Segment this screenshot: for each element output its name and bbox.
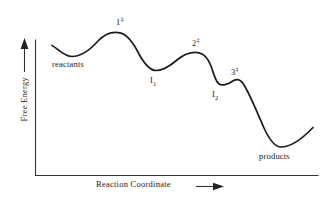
label-transition-state-1: 1‡ — [116, 18, 124, 27]
free-energy-curve — [52, 32, 313, 147]
label-reactants-text: reactants — [52, 59, 84, 69]
y-axis-title: Free Energy — [20, 61, 29, 137]
x-axis-title-text: Reaction Coordinate — [96, 179, 171, 189]
reaction-coordinate-diagram: reactants 1‡ I1 2‡ I2 3‡ products Reacti… — [0, 0, 331, 200]
label-intermediate-2: I2 — [212, 90, 218, 99]
label-products: products — [259, 152, 290, 161]
double-dagger-icon: ‡ — [196, 36, 199, 43]
label-reactants: reactants — [52, 60, 84, 69]
x-axis-arrow-head — [213, 183, 224, 191]
label-intermediate-1: I1 — [150, 76, 156, 85]
label-products-text: products — [259, 151, 290, 161]
label-i2-sub: 2 — [215, 94, 218, 101]
x-axis-title: Reaction Coordinate — [96, 180, 171, 189]
label-transition-state-2: 2‡ — [192, 39, 200, 48]
y-axis-arrow-head — [21, 38, 29, 49]
diagram-canvas — [0, 0, 331, 200]
double-dagger-icon: ‡ — [235, 65, 238, 72]
double-dagger-icon: ‡ — [120, 15, 123, 22]
label-transition-state-3: 3‡ — [231, 68, 239, 77]
y-axis-title-text: Free Energy — [19, 77, 29, 121]
label-i1-sub: 1 — [153, 80, 156, 87]
